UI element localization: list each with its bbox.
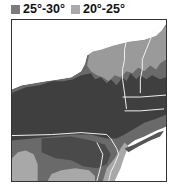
zone-light-southwest xyxy=(12,150,38,181)
legend-label-25-30: 25°-30° xyxy=(23,2,65,16)
zone-map xyxy=(12,20,166,181)
map-frame xyxy=(11,19,167,182)
map-legend: 25°-30° 20°-25° xyxy=(11,2,125,16)
legend-item-20-25: 20°-25° xyxy=(71,2,125,16)
legend-swatch-25-30 xyxy=(11,5,20,14)
legend-swatch-20-25 xyxy=(71,5,80,14)
legend-label-20-25: 20°-25° xyxy=(83,2,125,16)
legend-item-25-30: 25°-30° xyxy=(11,2,65,16)
